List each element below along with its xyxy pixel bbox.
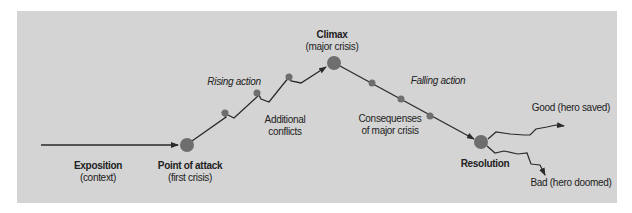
falling-node-2 — [398, 96, 405, 103]
rising-node-3 — [286, 74, 293, 81]
point-of-attack-node — [180, 138, 194, 152]
climax-label: Climax (major crisis) — [302, 29, 362, 53]
good-ending-label: Good (hero saved) — [526, 102, 616, 114]
bad-ending-label: Bad (hero doomed) — [524, 177, 618, 189]
climax-node — [327, 56, 341, 70]
good-ending-path — [488, 125, 564, 139]
rising-action-label: Rising action — [204, 76, 264, 88]
exposition-label: Exposition (context) — [68, 160, 128, 184]
rising-node-1 — [222, 110, 229, 117]
falling-node-1 — [369, 80, 376, 87]
point-of-attack-label: Point of attack (first crisis) — [148, 160, 232, 184]
resolution-label: Resolution — [456, 158, 514, 170]
resolution-node — [474, 135, 488, 149]
additional-conflicts-label: Additional conflicts — [257, 114, 313, 138]
rising-node-2 — [254, 90, 261, 97]
falling-action-label: Falling action — [405, 75, 471, 87]
consequences-label: Consequenses of major crisis — [352, 113, 428, 137]
